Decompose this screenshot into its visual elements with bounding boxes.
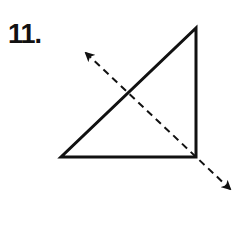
geometry-figure	[0, 0, 245, 228]
reflection-line	[86, 53, 230, 189]
